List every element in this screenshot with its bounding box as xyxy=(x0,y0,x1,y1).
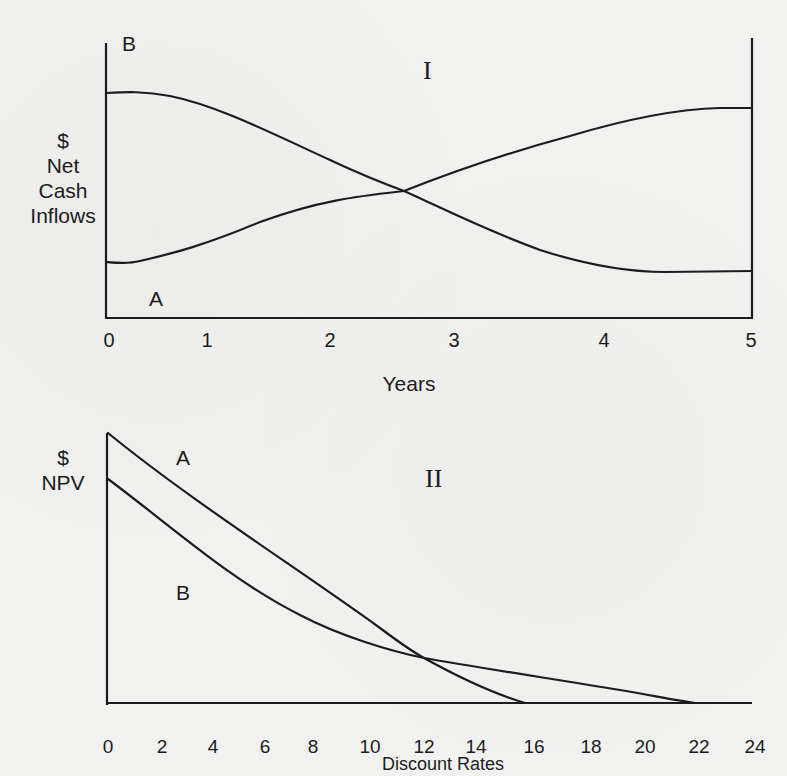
panel-ii-tick: 2 xyxy=(157,737,168,756)
panel-i-series-a-line xyxy=(107,108,752,263)
panel-i-tick: 1 xyxy=(201,330,212,350)
panel-ii-tick: 22 xyxy=(688,737,709,756)
panel-ii-tick: 4 xyxy=(208,737,219,756)
panel-ii-tick: 0 xyxy=(103,737,114,756)
panel-ii-series-a-line xyxy=(108,433,525,703)
panel-ii-series-b-line xyxy=(108,479,695,703)
panel-ii-tick: 6 xyxy=(260,737,271,756)
y-label-line: Inflows xyxy=(30,203,95,228)
panel-ii-label-a: A xyxy=(176,447,190,468)
panel-ii-tick: 10 xyxy=(359,737,380,756)
panel-ii-tick: 18 xyxy=(580,737,601,756)
y-label-line: Cash xyxy=(30,178,95,203)
panel-ii-tick: 20 xyxy=(634,737,655,756)
panel-ii-label-b: B xyxy=(176,582,190,603)
panel-i-tick: 0 xyxy=(103,330,114,350)
panel-ii-roman-numeral: II xyxy=(425,466,442,492)
panel-ii-y-axis-label: $ NPV xyxy=(41,445,84,495)
panel-i-tick: 3 xyxy=(448,330,459,350)
panel-i-tick: 5 xyxy=(745,330,756,350)
panel-i-tick: 4 xyxy=(598,330,609,350)
y-label-line: $ xyxy=(41,445,84,470)
panel-i-x-axis-label: Years xyxy=(383,373,436,394)
panel-i-label-a: A xyxy=(149,288,163,309)
panel-i-y-axis-label: $ Net Cash Inflows xyxy=(30,128,95,228)
panel-i-label-b: B xyxy=(122,33,136,54)
y-label-line: $ xyxy=(30,128,95,153)
panel-ii-tick: 16 xyxy=(523,737,544,756)
panel-ii-x-axis-label: Discount Rates xyxy=(382,755,504,773)
panel-ii-tick: 24 xyxy=(744,737,765,756)
panel-i-roman-numeral: I xyxy=(423,58,432,84)
panel-ii-tick: 8 xyxy=(308,737,319,756)
panel-i-tick: 2 xyxy=(324,330,335,350)
y-label-line: NPV xyxy=(41,470,84,495)
y-label-line: Net xyxy=(30,153,95,178)
